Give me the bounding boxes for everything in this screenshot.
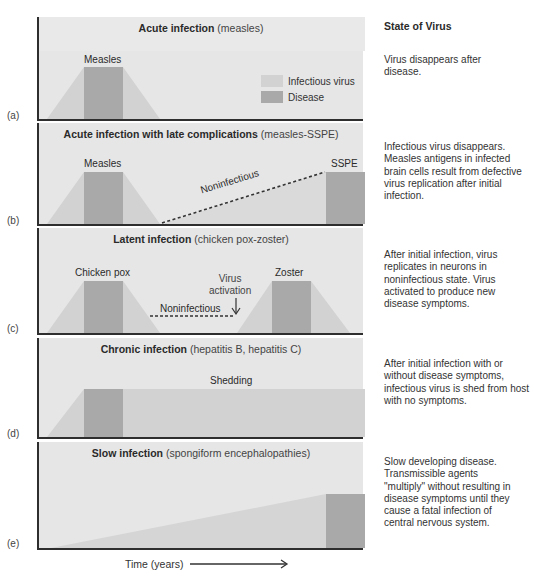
- panel-letter-b: (b): [7, 215, 19, 226]
- panel-title: Slow infection (spongiform encephalopath…: [39, 447, 363, 459]
- legend: Infectious virus Disease: [261, 73, 355, 105]
- chicken-pox-label: Chicken pox: [75, 267, 130, 278]
- panel-title: Chronic infection (hepatitis B, hepatiti…: [39, 343, 363, 355]
- measles-label: Measles: [84, 54, 121, 65]
- virus-activation-label: Virus activation: [209, 273, 251, 297]
- disease-swatch: [261, 91, 283, 103]
- panel-chronic-infection: Chronic infection (hepatitis B, hepatiti…: [37, 338, 363, 439]
- measles-label: Measles: [84, 158, 121, 169]
- sspe-label: SSPE: [331, 158, 358, 169]
- panel-acute-infection: Acute infection (measles) Measles Infect…: [37, 17, 363, 121]
- disease-bar: [84, 389, 123, 437]
- zoster-disease-bar: [272, 281, 311, 333]
- disease-bar: [326, 494, 365, 548]
- state-text-d: After initial infection with or without …: [384, 358, 532, 407]
- time-axis-label: Time (years): [125, 558, 290, 570]
- right-arrow-icon: [190, 559, 290, 569]
- legend-item-infectious-virus: Infectious virus: [261, 73, 355, 89]
- time-axis-text: Time (years): [125, 558, 184, 570]
- state-text-e: Slow developing disease. Transmissible a…: [384, 456, 512, 530]
- zoster-label: Zoster: [275, 267, 303, 278]
- panel-title: Acute infection with late complications …: [39, 128, 363, 140]
- panel-acute-late-complications: Acute infection with late complications …: [37, 123, 363, 226]
- panel-letter-a: (a): [7, 110, 19, 121]
- chicken-pox-disease-bar: [84, 281, 123, 333]
- noninfectious-label: Noninfectious: [160, 303, 221, 314]
- panel-letter-c: (c): [7, 323, 19, 334]
- state-of-virus-header: State of Virus: [384, 20, 452, 32]
- disease-bar: [84, 67, 123, 119]
- panel-letter-e: (e): [7, 538, 19, 549]
- infectious-virus-shape: [51, 494, 326, 548]
- panel-title: Acute infection (measles): [39, 22, 363, 34]
- measles-disease-bar: [84, 172, 123, 224]
- infectious-virus-swatch: [261, 75, 283, 87]
- panel-title: Latent infection (chicken pox-zoster): [39, 233, 363, 245]
- state-text-c: After initial infection, virus replicate…: [384, 249, 502, 310]
- sspe-disease-bar: [326, 172, 365, 224]
- shedding-label: Shedding: [210, 375, 252, 386]
- state-text-b: Infectious virus disappears. Measles ant…: [384, 141, 532, 202]
- state-text-a: Virus disappears after disease.: [384, 54, 504, 79]
- panel-letter-d: (d): [7, 428, 19, 439]
- panel-slow-infection: Slow infection (spongiform encephalopath…: [37, 442, 363, 550]
- panel-latent-infection: Latent infection (chicken pox-zoster) Ch…: [37, 228, 363, 335]
- legend-item-disease: Disease: [261, 89, 355, 105]
